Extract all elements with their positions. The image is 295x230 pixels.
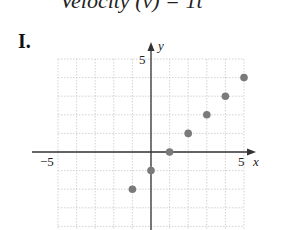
x-max-tick-label: 5	[238, 154, 245, 169]
data-point	[240, 74, 248, 82]
scatter-plot: −5 5 x 5 y	[0, 0, 295, 230]
x-axis-label: x	[252, 154, 259, 169]
x-min-tick-label: −5	[40, 154, 54, 169]
data-point	[129, 185, 137, 193]
data-point	[147, 167, 155, 175]
axes	[32, 42, 256, 230]
data-point	[222, 92, 230, 100]
y-axis-label: y	[156, 38, 164, 53]
data-point	[166, 148, 174, 156]
y-axis-arrow-icon	[148, 42, 155, 51]
y-max-tick-label: 5	[139, 52, 146, 67]
data-point	[203, 111, 211, 119]
data-point	[184, 130, 192, 138]
